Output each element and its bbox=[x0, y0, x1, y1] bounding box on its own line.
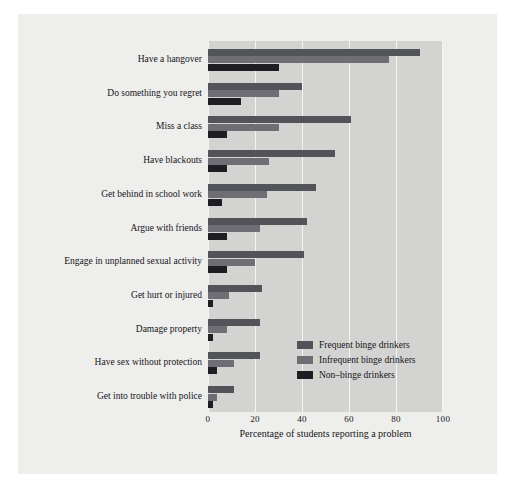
bar bbox=[208, 292, 229, 299]
bar bbox=[208, 218, 307, 225]
bar bbox=[208, 394, 217, 401]
bar-group bbox=[208, 184, 443, 206]
legend-swatch-icon bbox=[297, 341, 313, 349]
x-tick-label: 60 bbox=[344, 414, 354, 424]
bar bbox=[208, 150, 335, 157]
bar bbox=[208, 300, 213, 307]
bar-group bbox=[208, 386, 443, 408]
legend-item: Infrequent binge drinkers bbox=[297, 353, 442, 366]
bar bbox=[208, 158, 269, 165]
bar bbox=[208, 83, 302, 90]
bar bbox=[208, 165, 227, 172]
bar-group bbox=[208, 116, 443, 138]
category-label: Get behind in school work bbox=[101, 189, 202, 200]
category-label: Miss a class bbox=[156, 121, 202, 132]
category-label: Get hurt or injured bbox=[131, 290, 202, 301]
category-axis-labels: Have a hangoverDo something you regretMi… bbox=[0, 41, 202, 412]
legend-label: Non–binge drinkers bbox=[319, 370, 395, 380]
category-label: Argue with friends bbox=[130, 223, 202, 234]
bar-group bbox=[208, 83, 443, 105]
bar bbox=[208, 319, 260, 326]
bar bbox=[208, 131, 227, 138]
bar bbox=[208, 225, 260, 232]
bar-group bbox=[208, 150, 443, 172]
bar bbox=[208, 116, 351, 123]
bar-group bbox=[208, 251, 443, 273]
category-label: Get into trouble with police bbox=[97, 391, 202, 402]
category-label: Have a hangover bbox=[138, 54, 202, 65]
bar bbox=[208, 386, 234, 393]
x-tick-label: 80 bbox=[391, 414, 401, 424]
bar bbox=[208, 266, 227, 273]
legend-item: Non–binge drinkers bbox=[297, 368, 442, 381]
category-label: Engage in unplanned sexual activity bbox=[64, 256, 202, 267]
legend-label: Infrequent binge drinkers bbox=[319, 355, 416, 365]
bar bbox=[208, 334, 213, 341]
bar bbox=[208, 285, 262, 292]
bar bbox=[208, 259, 255, 266]
bar bbox=[208, 49, 420, 56]
bar-group bbox=[208, 285, 443, 307]
bar bbox=[208, 401, 213, 408]
chart-figure: Have a hangoverDo something you regretMi… bbox=[0, 0, 515, 488]
bar bbox=[208, 199, 222, 206]
bar bbox=[208, 64, 279, 71]
category-label: Do something you regret bbox=[107, 88, 202, 99]
bar bbox=[208, 352, 260, 359]
bar bbox=[208, 98, 241, 105]
x-axis-title: Percentage of students reporting a probl… bbox=[208, 428, 443, 439]
bar-group bbox=[208, 218, 443, 240]
bar bbox=[208, 124, 279, 131]
bar bbox=[208, 251, 304, 258]
bar bbox=[208, 184, 316, 191]
x-tick-label: 100 bbox=[436, 414, 450, 424]
category-label: Have sex without protection bbox=[95, 357, 202, 368]
category-label: Damage property bbox=[136, 324, 202, 335]
x-tick-label: 0 bbox=[206, 414, 211, 424]
x-axis-tick-labels: 020406080100 bbox=[208, 414, 443, 428]
bar bbox=[208, 367, 217, 374]
bar bbox=[208, 233, 227, 240]
bar-group bbox=[208, 49, 443, 71]
legend: Frequent binge drinkersInfrequent binge … bbox=[297, 338, 442, 383]
category-label: Have blackouts bbox=[143, 155, 202, 166]
bar bbox=[208, 90, 279, 97]
legend-item: Frequent binge drinkers bbox=[297, 338, 442, 351]
bar bbox=[208, 360, 234, 367]
bar bbox=[208, 326, 227, 333]
bar bbox=[208, 56, 389, 63]
bar bbox=[208, 191, 267, 198]
legend-swatch-icon bbox=[297, 356, 313, 364]
x-tick-label: 40 bbox=[297, 414, 307, 424]
legend-label: Frequent binge drinkers bbox=[319, 340, 410, 350]
x-tick-label: 20 bbox=[250, 414, 260, 424]
legend-swatch-icon bbox=[297, 371, 313, 379]
